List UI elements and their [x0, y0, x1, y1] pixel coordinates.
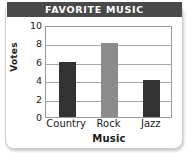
- y-axis-tick-label: 10: [22, 21, 42, 31]
- bar: [101, 43, 118, 117]
- plot-area: [45, 26, 172, 118]
- x-axis-tick-label: Jazz: [121, 119, 181, 129]
- y-axis-title: Votes: [9, 39, 19, 75]
- bar-series: [46, 27, 171, 117]
- chart-title: FAVORITE MUSIC: [45, 5, 144, 15]
- chart-figure: FAVORITE MUSIC Votes 1086420 CountryRock…: [0, 0, 188, 157]
- x-axis-title: Music: [45, 133, 173, 144]
- y-axis-tick-label: 4: [22, 76, 42, 86]
- y-axis-tick-label: 2: [22, 95, 42, 105]
- chart-title-bar: FAVORITE MUSIC: [7, 2, 182, 17]
- y-axis-tick-label: 8: [22, 39, 42, 49]
- y-axis-tick-label: 6: [22, 58, 42, 68]
- bar: [143, 80, 160, 117]
- bar: [59, 62, 76, 117]
